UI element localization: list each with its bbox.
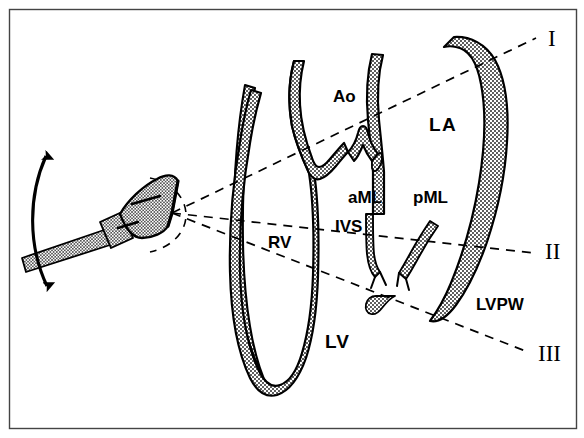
label-ivs: IVS xyxy=(335,217,362,236)
label-pml: pML xyxy=(413,188,448,207)
scan-plane-label-I: I xyxy=(548,26,556,51)
figure-canvas: Ao LA aML pML IVS RV LV LVPW I II III xyxy=(0,0,584,438)
label-rv: RV xyxy=(268,233,292,252)
label-lvpw: LVPW xyxy=(476,295,525,314)
label-lv: LV xyxy=(325,331,350,352)
scan-plane-label-III: III xyxy=(538,341,561,366)
label-aml: aML xyxy=(348,188,382,207)
label-ao: Ao xyxy=(333,87,356,106)
echocardiography-scan-plane-figure: Ao LA aML pML IVS RV LV LVPW I II III xyxy=(0,0,584,438)
scan-plane-label-II: II xyxy=(545,239,560,264)
label-la: LA xyxy=(429,114,457,135)
